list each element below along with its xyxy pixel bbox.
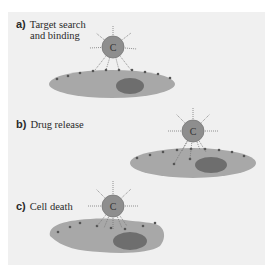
nucleus-b (195, 157, 227, 173)
cell-c (50, 219, 164, 253)
panel-a-label: a)Target search and binding (16, 19, 86, 41)
carrier-label-c: C (110, 201, 117, 212)
cell-b (130, 148, 256, 178)
panel-a-title-1: Target search (30, 19, 86, 30)
panel-b-diagram: C (130, 107, 256, 178)
panel-c-letter: c) (16, 200, 26, 212)
panel-c-title: Cell death (30, 201, 73, 212)
panel-a-title-2: and binding (30, 30, 80, 41)
panel-b-letter: b) (16, 118, 26, 130)
nucleus-a (116, 78, 144, 94)
panel-a-letter: a) (16, 18, 26, 30)
nucleus-c (113, 232, 147, 250)
carrier-label-a: C (110, 42, 117, 53)
carrier-label-b: C (190, 126, 197, 137)
panel-b-label: b)Drug release (16, 119, 84, 130)
panel-b-title: Drug release (30, 119, 83, 130)
panel-c-diagram: C (50, 181, 164, 253)
cell-a (49, 70, 175, 98)
panel-c-label: c)Cell death (16, 201, 73, 212)
